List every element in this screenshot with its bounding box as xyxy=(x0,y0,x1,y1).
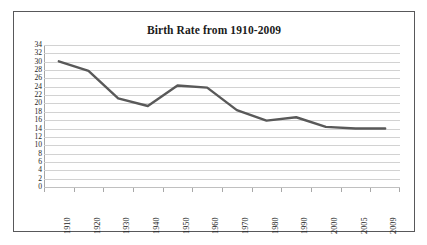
x-tick-1990 xyxy=(281,188,282,192)
x-tick-2005 xyxy=(341,188,342,192)
y-tick-label-16: 16 xyxy=(20,116,42,124)
x-tick-label-1950: 1950 xyxy=(182,194,191,234)
x-tick-label-1920: 1920 xyxy=(93,194,102,234)
x-tick-1970 xyxy=(222,188,223,192)
x-tick-1930 xyxy=(103,188,104,192)
x-tick-label-2000: 2000 xyxy=(330,194,339,234)
chart-container: Birth Rate from 1910-2009 34323028262422… xyxy=(13,11,415,232)
chart-title: Birth Rate from 1910-2009 xyxy=(14,24,414,36)
x-tick-2000 xyxy=(311,188,312,192)
x-tick-1950 xyxy=(163,188,164,192)
x-tick-label-2009: 2009 xyxy=(389,194,398,234)
data-series-line xyxy=(44,45,400,187)
x-tick-label-1940: 1940 xyxy=(152,194,161,234)
x-tick-label-1970: 1970 xyxy=(241,194,250,234)
x-tick-end xyxy=(399,188,400,192)
x-tick-1940 xyxy=(133,188,134,192)
x-tick-1980 xyxy=(252,188,253,192)
y-tick-label-0: 0 xyxy=(20,183,42,191)
x-tick-1960 xyxy=(192,188,193,192)
plot-area xyxy=(44,45,400,187)
x-tick-label-1990: 1990 xyxy=(300,194,309,234)
x-tick-label-1910: 1910 xyxy=(63,194,72,234)
x-tick-label-1980: 1980 xyxy=(271,194,280,234)
x-tick-label-1930: 1930 xyxy=(122,194,131,234)
x-tick-1910 xyxy=(44,188,45,192)
x-tick-1920 xyxy=(74,188,75,192)
x-axis-ticks xyxy=(44,188,400,193)
x-tick-label-1960: 1960 xyxy=(211,194,220,234)
x-tick-2009 xyxy=(370,188,371,192)
x-tick-label-2005: 2005 xyxy=(360,194,369,234)
y-axis-tick-labels: 3432302826242220181614121086420 xyxy=(18,45,42,187)
x-axis-tick-labels: 1910192019301940195019601970198019902000… xyxy=(44,194,400,234)
